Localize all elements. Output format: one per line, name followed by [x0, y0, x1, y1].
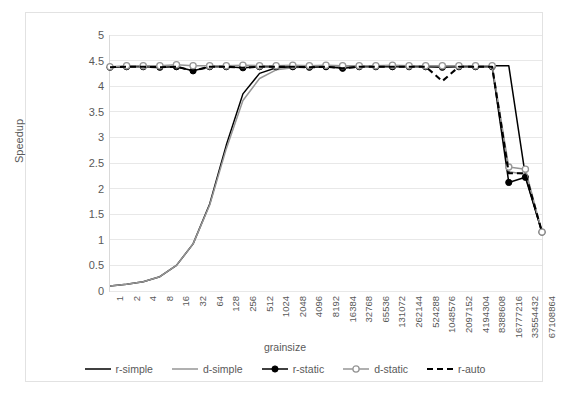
x-tick-label: 2 — [131, 296, 142, 301]
x-tick-label: 8192 — [330, 296, 341, 317]
y-tick-label: 1.5 — [60, 209, 104, 220]
y-tick-label: 2 — [60, 184, 104, 195]
x-tick-label: 4 — [147, 296, 158, 301]
x-tick-label: 262144 — [413, 296, 424, 328]
x-tick-label: 32 — [197, 296, 208, 307]
legend-label: r-auto — [458, 363, 485, 375]
y-tick-label: 4.5 — [60, 56, 104, 67]
x-tick-label: 4194304 — [480, 296, 491, 333]
legend-label: r-static — [293, 363, 325, 375]
data-point — [539, 229, 545, 235]
y-tick-label: 0.5 — [60, 260, 104, 271]
series-line — [110, 67, 542, 232]
data-point — [190, 63, 196, 69]
chart-screenshot: 54.543.532.521.510.50 Speedup 1248163264… — [0, 0, 568, 403]
x-tick-label: 1024 — [280, 296, 291, 317]
chart-legend: r-simpled-simpler-staticd-staticr-auto — [26, 363, 544, 375]
y-tick-label: 3 — [60, 132, 104, 143]
x-tick-label: 16384 — [347, 296, 358, 322]
legend-swatch-icon — [85, 364, 111, 374]
x-tick-label: 524288 — [430, 296, 441, 328]
data-point — [124, 63, 130, 69]
legend-swatch-icon — [343, 364, 369, 374]
x-tick-label: 65536 — [380, 296, 391, 322]
x-tick-label: 33554432 — [529, 296, 540, 338]
legend-swatch-icon — [262, 364, 288, 374]
x-tick-label: 128 — [230, 296, 241, 312]
series-d-static — [107, 62, 545, 236]
x-tick-label: 64 — [214, 296, 225, 307]
legend-item-d-static[interactable]: d-static — [343, 363, 408, 375]
series-canvas — [110, 35, 542, 291]
legend-swatch-icon — [172, 364, 198, 374]
data-point — [439, 63, 445, 69]
y-tick-label: 4 — [60, 81, 104, 92]
x-tick-label: 8 — [164, 296, 175, 301]
x-tick-label: 16777216 — [513, 296, 524, 338]
legend-label: r-simple — [116, 363, 153, 375]
x-tick-label: 2048 — [297, 296, 308, 317]
x-axis-title: grainsize — [26, 341, 544, 353]
figure-caption — [0, 392, 568, 403]
x-tick-label: 2097152 — [463, 296, 474, 333]
y-tick-label: 0 — [60, 286, 104, 297]
x-tick-label: 67108864 — [546, 296, 557, 338]
legend-item-r-auto[interactable]: r-auto — [427, 363, 485, 375]
x-tick-label: 4096 — [313, 296, 324, 317]
series-line — [110, 66, 542, 286]
x-tick-label: 1048576 — [446, 296, 457, 333]
chart-frame: 54.543.532.521.510.50 Speedup 1248163264… — [25, 12, 543, 382]
plot-area — [110, 35, 542, 291]
series-line — [110, 67, 542, 232]
series-r-static — [107, 64, 545, 236]
series-d-simple — [110, 66, 542, 286]
x-tick-label: 256 — [247, 296, 258, 312]
x-tick-label: 1 — [114, 296, 125, 301]
y-tick-label: 5 — [60, 30, 104, 41]
legend-item-d-simple[interactable]: d-simple — [172, 363, 243, 375]
x-tick-label: 8388608 — [496, 296, 507, 333]
y-tick-label: 1 — [60, 235, 104, 246]
series-r-auto — [110, 67, 542, 232]
series-line — [110, 65, 542, 232]
data-point — [506, 179, 512, 185]
legend-item-r-static[interactable]: r-static — [262, 363, 325, 375]
y-tick-label: 2.5 — [60, 158, 104, 169]
legend-swatch-icon — [427, 364, 453, 374]
legend-item-r-simple[interactable]: r-simple — [85, 363, 153, 375]
x-tick-label: 131072 — [396, 296, 407, 328]
x-tick-label: 512 — [264, 296, 275, 312]
legend-label: d-static — [374, 363, 408, 375]
x-tick-label: 16 — [180, 296, 191, 307]
data-point — [522, 166, 528, 172]
y-axis-title: Speedup — [13, 119, 25, 163]
x-tick-label: 32768 — [363, 296, 374, 322]
series-r-simple — [110, 66, 542, 286]
series-line — [110, 66, 542, 286]
y-tick-label: 3.5 — [60, 107, 104, 118]
legend-label: d-simple — [203, 363, 243, 375]
